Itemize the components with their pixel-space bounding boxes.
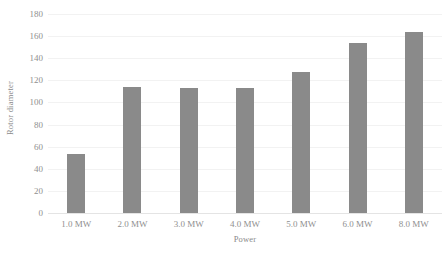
bar: [292, 72, 310, 214]
bar: [405, 32, 423, 213]
x-axis-tick-label: 1.0 MW: [61, 218, 91, 230]
x-axis-title: Power: [48, 234, 442, 244]
y-axis-tick-label: 140: [30, 54, 44, 63]
bar-chart: Rotor diameter 020406080100120140160180 …: [0, 0, 446, 261]
x-axis-tick-label: 6.0 MW: [343, 218, 373, 230]
x-axis-tick-label: 2.0 MW: [117, 218, 147, 230]
y-axis-tick-label: 120: [30, 76, 44, 85]
bars-layer: [48, 14, 442, 214]
y-axis-tick-label: 60: [34, 142, 43, 151]
y-axis-tick-label: 100: [30, 98, 44, 107]
plot-area: [48, 14, 442, 214]
x-axis-tick-label: 8.0 MW: [399, 218, 429, 230]
y-axis-tick-label: 20: [34, 186, 43, 195]
bar: [123, 87, 141, 213]
bar: [349, 43, 367, 213]
x-axis-tick-label: 5.0 MW: [286, 218, 316, 230]
bar: [180, 88, 198, 213]
x-axis-tick-label: 4.0 MW: [230, 218, 260, 230]
y-axis-tick-label: 180: [30, 10, 44, 19]
y-axis-tick-label: 80: [34, 120, 43, 129]
y-axis-title-label: Rotor diameter: [5, 80, 15, 134]
y-axis-tick-label: 160: [30, 32, 44, 41]
y-axis-tick-labels: 020406080100120140160180: [20, 0, 46, 215]
y-axis-tick-label: 0: [39, 209, 44, 218]
bar: [67, 154, 85, 213]
x-axis-tick-labels: 1.0 MW2.0 MW3.0 MW4.0 MW5.0 MW6.0 MW8.0 …: [48, 218, 442, 234]
y-axis-tick-label: 40: [34, 164, 43, 173]
y-axis-title: Rotor diameter: [0, 0, 20, 215]
bar: [236, 88, 254, 213]
x-axis-tick-label: 3.0 MW: [174, 218, 204, 230]
